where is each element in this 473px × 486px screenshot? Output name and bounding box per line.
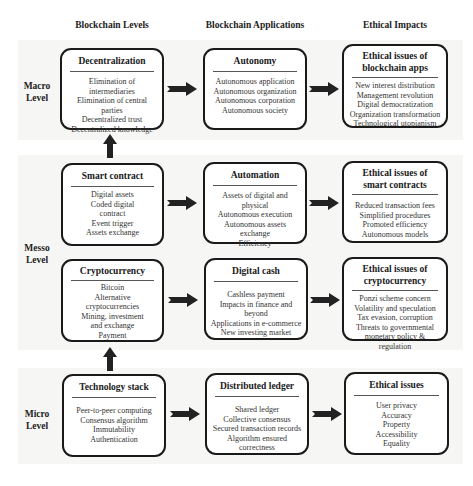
list-item: Collective consensus: [211, 415, 303, 425]
list-item: Autonomous organization: [209, 87, 301, 97]
ethical-issues-blockchain-apps-box: Ethical issues of blockchain apps New in…: [342, 44, 448, 128]
divider: [71, 186, 154, 187]
arrow-right-icon: [309, 82, 339, 96]
header-ethical-impacts: Ethical Impacts: [343, 20, 447, 30]
list-item: Digital democratization: [348, 100, 442, 110]
ethical-issues-smart-contracts-box: Ethical issues of smart contracts Reduce…: [342, 161, 448, 243]
list-item: Assets exchange: [67, 228, 158, 238]
list-item: Accuracy: [350, 411, 443, 421]
list-item: Threats to governmental: [348, 323, 442, 333]
list-item: User privacy: [350, 401, 443, 411]
arrow-right-icon: [170, 407, 200, 421]
list-item: Secured transaction records: [211, 424, 303, 434]
divider: [352, 194, 438, 195]
divider: [354, 395, 439, 396]
arrow-right-icon: [309, 196, 339, 210]
list-item: Cashless payment: [210, 290, 302, 300]
list-item: Autonomous assets exchange: [209, 220, 301, 239]
list-item: Decentralized trust: [66, 115, 158, 125]
divider: [214, 281, 298, 282]
list-item: Event trigger: [67, 219, 158, 229]
list-item: cryptocurrencies: [67, 302, 158, 312]
ethical-issues-box: Ethical issues User privacy Accuracy Pro…: [344, 372, 449, 455]
box-title: Technology stack: [68, 381, 160, 397]
list-item: Elimination of central parties: [66, 96, 158, 115]
list-item: Elimination of intermediaries: [66, 77, 158, 96]
list-item: Mining, investment: [67, 312, 158, 322]
box-title: Digital cash: [210, 265, 302, 281]
list-item: Shared ledger: [211, 405, 303, 415]
list-item: Coded digital: [67, 200, 158, 210]
list-item: Impacts in finance and beyond: [210, 300, 302, 319]
header-blockchain-levels: Blockchain Levels: [60, 20, 164, 30]
divider: [352, 290, 438, 291]
list-item: Promoted efficiency: [348, 220, 442, 230]
divider: [72, 397, 156, 398]
ethical-issues-cryptocurrency-box: Ethical issues of cryptocurrency Ponzi s…: [342, 257, 448, 341]
list-item: monetary policy & regulation: [348, 332, 442, 351]
list-item: Autonomous execution: [209, 210, 301, 220]
smart-contract-box: Smart contract Digital assets Coded digi…: [61, 163, 164, 246]
distributed-ledger-box: Distributed ledger Shared ledger Collect…: [205, 373, 309, 455]
arrow-up-icon: [103, 134, 117, 158]
list-item: Ponzi scheme concern: [348, 294, 442, 304]
list-item: Reduced transaction fees: [348, 201, 442, 211]
autonomy-box: Autonomy Autonomous application Autonomo…: [203, 48, 307, 130]
list-item: Organization transformation: [348, 110, 442, 120]
list-item: and exchange: [67, 321, 158, 331]
header-blockchain-applications: Blockchain Applications: [195, 20, 315, 30]
box-title: Ethical issues of cryptocurrency: [348, 263, 442, 290]
list-item: Bitcoin: [67, 283, 158, 293]
list-item: Simplified procedures: [348, 211, 442, 221]
box-title: Ethical issues of blockchain apps: [348, 50, 442, 77]
box-title: Autonomy: [209, 55, 301, 71]
micro-level-label: Micro Level: [17, 408, 57, 432]
box-title: Distributed ledger: [211, 380, 303, 396]
decentralization-box: Decentralization Elimination of intermed…: [60, 48, 164, 130]
list-item: Autonomous models: [348, 230, 442, 240]
list-item: Volatility and speculation: [348, 304, 442, 314]
list-item: Technological utopianism: [348, 119, 442, 129]
list-item: Peer-to-peer computing: [68, 406, 160, 416]
list-item: New investing market: [210, 328, 302, 338]
digital-cash-box: Digital cash Cashless payment Impacts in…: [204, 258, 308, 340]
arrow-right-icon: [167, 196, 197, 210]
arrow-right-icon: [167, 82, 197, 96]
list-item: Consensus algorithm: [68, 416, 160, 426]
macro-level-label: Macro Level: [17, 80, 57, 104]
box-title: Cryptocurrency: [67, 265, 158, 280]
list-item: Equality: [350, 439, 443, 449]
list-item: Applications in e-commerce: [210, 319, 302, 329]
divider: [213, 185, 297, 186]
arrow-right-icon: [312, 407, 342, 421]
divider: [213, 71, 297, 72]
list-item: Payment: [67, 331, 158, 341]
list-item: Accessibility: [350, 430, 443, 440]
list-item: contract: [67, 209, 158, 219]
messo-level-label: Messo Level: [17, 242, 57, 266]
automation-box: Automation Assets of digital and physica…: [203, 162, 307, 244]
technology-stack-box: Technology stack Peer-to-peer computing …: [62, 374, 166, 457]
list-item: Property: [350, 420, 443, 430]
box-title: Ethical issues: [350, 379, 443, 395]
divider: [352, 77, 438, 78]
box-title: Automation: [209, 169, 301, 185]
box-title: Decentralization: [66, 55, 158, 71]
arrow-right-icon: [310, 293, 340, 307]
list-item: Assets of digital and physical: [209, 191, 301, 210]
list-item: Immutability: [68, 425, 160, 435]
divider: [215, 396, 299, 397]
list-item: New interest distribution: [348, 81, 442, 91]
divider: [70, 71, 154, 72]
list-item: Algorithm ensured correctness: [211, 434, 303, 453]
list-item: Autonomous corporation: [209, 96, 301, 106]
arrow-up-icon: [103, 347, 117, 371]
list-item: Autonomous application: [209, 77, 301, 87]
arrow-right-icon: [168, 293, 198, 307]
list-item: Digital assets: [67, 190, 158, 200]
list-item: Autonomous society: [209, 106, 301, 116]
cryptocurrency-box: Cryptocurrency Bitcoin Alternative crypt…: [61, 259, 164, 342]
list-item: Alternative: [67, 293, 158, 303]
box-title: Smart contract: [67, 170, 158, 186]
list-item: Management revolution: [348, 91, 442, 101]
